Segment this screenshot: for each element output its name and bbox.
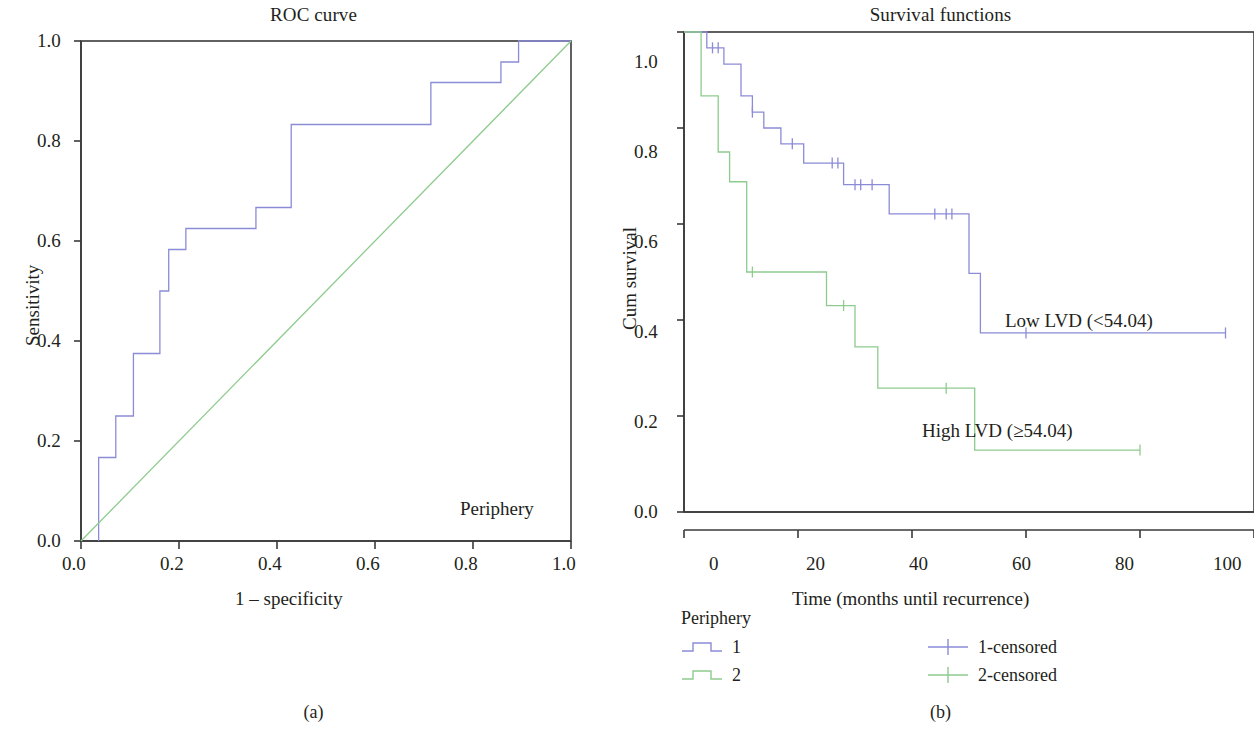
x-tick-label: 0.4 [258,553,282,575]
x-tick-label: 1.0 [552,553,576,575]
x-tick-label: 100 [1213,553,1242,575]
legend-label-1-censored: 1-censored [978,638,1057,656]
x-tick-label: 20 [806,553,825,575]
x-axis-label-roc: 1 – specificity [235,588,343,610]
y-axis-label-roc: Sensitivity [22,265,44,346]
y-axis-label-survival: Cum survival [619,227,641,330]
x-tick-label: 0.2 [160,553,184,575]
y-tick-label: 0.0 [634,501,658,523]
legend-item-2-censored[interactable]: 2-censored [927,666,1057,684]
legend-label-2-censored: 2-censored [978,666,1057,684]
x-tick-label: 0 [709,553,719,575]
y-tick-label: 0.2 [634,411,658,433]
y-tick-label: 1.0 [37,30,61,52]
series-line-2 [684,32,1140,450]
figure-container: ROC curve 1.0 0.8 0.6 0.4 0.2 0.0 0.0 0.… [0,0,1254,744]
x-tick-label: 0.6 [356,553,380,575]
censored-cross-swatch-1 [927,638,969,656]
roc-plot-svg [0,0,627,620]
x-tick-label: 0.8 [454,553,478,575]
x-tick-label: 40 [909,553,928,575]
subcaption-b: (b) [627,702,1254,723]
panel-b-survival-functions: Survival functions 1.0 0.8 0.6 0.4 0.2 0… [627,0,1254,744]
series-line-1 [99,41,571,541]
series-line-2 [81,41,571,541]
y-tick-label: 0.8 [37,130,61,152]
y-tick-label: 0.2 [37,430,61,452]
x-tick-label: 0.0 [62,553,86,575]
legend-label-1: 1 [732,638,741,656]
censored-cross-swatch-2 [927,666,969,684]
series-line-1 [684,32,1226,333]
legend-title: Periphery [681,608,751,629]
roc-annotation-periphery: Periphery [460,498,534,520]
y-tick-label: 0.8 [634,141,658,163]
x-tick-label: 60 [1012,553,1031,575]
annotation-high-lvd: High LVD (≥54.04) [922,420,1073,442]
legend-item-1-censored[interactable]: 1-censored [927,638,1057,656]
x-axis-label-survival: Time (months until recurrence) [792,588,1029,610]
y-tick-label: 0.0 [37,530,61,552]
y-tick-label: 0.6 [37,230,61,252]
subcaption-a: (a) [0,702,627,723]
step-line-swatch-1 [681,639,723,655]
annotation-low-lvd: Low LVD (<54.04) [1005,310,1153,332]
legend-label-2: 2 [732,666,741,684]
panel-a-roc-curve: ROC curve 1.0 0.8 0.6 0.4 0.2 0.0 0.0 0.… [0,0,627,744]
legend-item-1[interactable]: 1 [681,638,741,656]
step-line-swatch-2 [681,667,723,683]
y-tick-label: 1.0 [634,51,658,73]
survival-plot-svg [627,0,1254,620]
legend-item-2[interactable]: 2 [681,666,741,684]
x-tick-label: 80 [1115,553,1134,575]
